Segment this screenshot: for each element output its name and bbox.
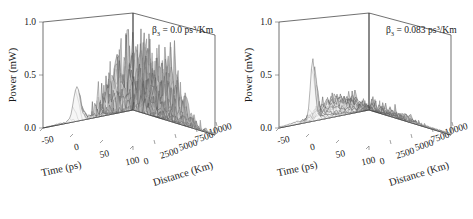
y-tick-label: 2500 — [395, 145, 416, 160]
y-tick-label: 10000 — [207, 121, 233, 138]
beta-value: 0.083 — [404, 25, 426, 35]
beta-unit-tail: /Km — [196, 25, 214, 35]
z-tick-label: 1.0 — [260, 17, 272, 27]
z-tick-label: 1.0 — [24, 17, 36, 27]
z-tick-label: 0.5 — [260, 70, 272, 80]
z-axis-ticks-right: 1.0 0.5 0.0 — [260, 17, 279, 133]
y-tick-label: 10000 — [443, 121, 469, 138]
x-tick-label: 100 — [124, 155, 140, 168]
y-axis-title: Distance (Km) — [388, 159, 451, 189]
z-tick-label: 0.0 — [24, 123, 36, 133]
annotation-beta3-right: β3 = 0.083 ps3/Km — [386, 24, 457, 37]
beta-unit-tail: /Km — [440, 25, 458, 35]
figure-root: 1.0 0.5 0.0 Power (mW) -50 0 50 100 Time… — [0, 0, 473, 219]
x-axis-title: Time (ps) — [276, 159, 319, 179]
x-tick-label: 0 — [309, 142, 316, 153]
y-axis-title: Distance (Km) — [152, 159, 215, 189]
z-axis-ticks-left: 1.0 0.5 0.0 — [24, 17, 43, 133]
x-axis-ticks-left: -50 0 50 100 — [40, 128, 141, 167]
annotation-beta3-left: β3 = 0.0 ps3/Km — [152, 24, 214, 37]
plot-panel-right: 1.0 0.5 0.0 Power (mW) -50 0 50 100 Time… — [236, 0, 473, 219]
beta-unit-base: ps — [426, 25, 437, 35]
beta-equals: = — [394, 25, 404, 35]
x-axis-title: Time (ps) — [40, 159, 83, 179]
beta-unit-base: ps — [182, 25, 193, 35]
z-tick-label: 0.5 — [24, 70, 36, 80]
y-tick-label: 0 — [142, 156, 150, 167]
z-tick-label: 0.0 — [260, 123, 272, 133]
x-tick-label: 100 — [360, 155, 376, 168]
x-tick-label: 0 — [73, 142, 80, 153]
y-axis-ticks-right: 0 2500 5000 7500 10000 — [369, 121, 469, 167]
x-tick-label: 50 — [99, 148, 111, 160]
x-axis-ticks-right: -50 0 50 100 — [276, 128, 377, 167]
beta-value: 0.0 — [170, 25, 182, 35]
y-axis-ticks-left: 0 2500 5000 7500 10000 — [133, 121, 233, 167]
y-tick-label: 0 — [378, 156, 386, 167]
plot-panel-left: 1.0 0.5 0.0 Power (mW) -50 0 50 100 Time… — [0, 0, 237, 219]
z-axis-title: Power (mW) — [7, 47, 19, 102]
beta-equals: = — [160, 25, 170, 35]
x-tick-label: -50 — [276, 134, 291, 146]
surface-mesh-left — [43, 29, 215, 153]
x-tick-label: -50 — [40, 134, 55, 146]
z-axis-title: Power (mW) — [243, 47, 255, 102]
y-tick-label: 2500 — [159, 145, 180, 160]
x-tick-label: 50 — [335, 148, 347, 160]
